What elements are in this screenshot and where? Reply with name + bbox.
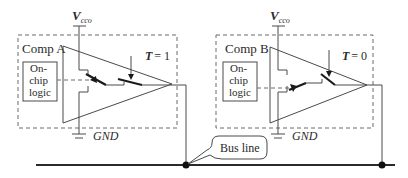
component-a-vcco-label: Vcco (72, 8, 92, 25)
component-b-output-wire (367, 85, 382, 165)
arrow-down-icon (326, 71, 332, 77)
component-a-internal-wire (106, 82, 124, 85)
component-a-ground-wire (79, 86, 88, 134)
arrow-down-icon (128, 74, 134, 80)
component-b-logic-label: On- chip logic (229, 62, 251, 98)
component-a: Comp A Vcco GND On- chip logic (18, 8, 186, 165)
ground-icon (72, 134, 86, 138)
component-b-vcco-label: Vcco (270, 8, 290, 25)
component-a-output-wire (172, 85, 186, 165)
component-a-control-label: T= 1 (145, 49, 170, 63)
component-a-gnd-label: GND (93, 129, 119, 143)
component-b-internal-wire (306, 79, 322, 83)
component-b-label: Comp B (225, 41, 269, 56)
component-a-enable-switch (118, 79, 142, 85)
component-b-ground-wire (278, 86, 287, 134)
component-b-enable-switch (321, 74, 335, 85)
component-a-label: Comp A (22, 41, 66, 56)
bus-line: Bus line (36, 136, 395, 169)
component-a-supply-wire (79, 26, 88, 75)
bus-line-label: Bus line (220, 141, 260, 155)
ground-icon (271, 134, 285, 138)
component-a-logic-label: On- chip logic (29, 62, 51, 98)
component-b-control-label: T= 0 (342, 49, 367, 63)
bus-junction-b (379, 162, 386, 169)
bus-junction-a (183, 162, 190, 169)
tristate-bus-diagram: Comp A Vcco GND On- chip logic (0, 0, 408, 178)
component-b-gnd-label: GND (292, 129, 318, 143)
